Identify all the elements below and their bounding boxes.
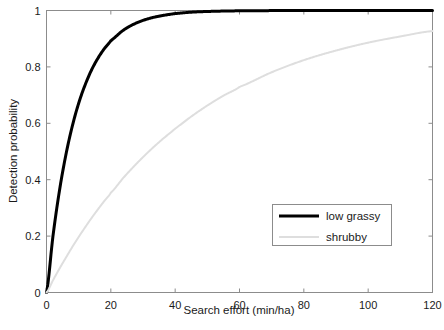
y-tick-label: 0.8 [13, 61, 41, 72]
y-tick-label: 0.2 [13, 231, 41, 242]
legend: low grassy shrubby [272, 204, 392, 246]
legend-item-low-grassy: low grassy [273, 205, 391, 226]
series-lines [47, 11, 433, 293]
x-tick-label: 120 [423, 300, 441, 311]
plot-canvas [0, 0, 444, 330]
x-tick-label: 100 [359, 300, 377, 311]
series-line-shrubby [47, 31, 433, 292]
x-tick-label: 20 [105, 300, 117, 311]
legend-label-shrubby: shrubby [326, 231, 367, 243]
x-tick-label: 80 [298, 300, 310, 311]
legend-item-shrubby: shrubby [273, 226, 391, 247]
x-tick-label: 0 [43, 300, 49, 311]
axes-frame [47, 11, 433, 293]
axis-ticks [47, 11, 433, 293]
axes-box [47, 11, 433, 293]
legend-swatch-shrubby [279, 231, 319, 243]
series-line-low-grassy [47, 11, 433, 293]
y-tick-label: 0 [13, 287, 41, 298]
legend-label-low-grassy: low grassy [326, 210, 380, 222]
y-axis-label: Detection probability [7, 99, 19, 203]
detection-probability-chart: 02040608010012000.20.40.60.81 Search eff… [0, 0, 444, 330]
x-axis-label: Search effort (min/ha) [183, 304, 294, 316]
legend-swatch-low-grassy [279, 210, 319, 222]
y-tick-label: 1 [13, 5, 41, 16]
x-tick-label: 40 [169, 300, 181, 311]
